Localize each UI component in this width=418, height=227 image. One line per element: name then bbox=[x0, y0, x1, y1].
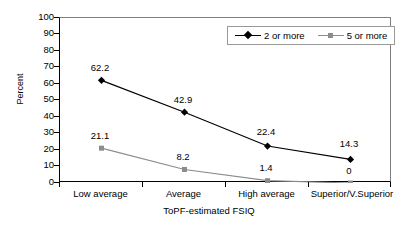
chart-figure: Percent 100 90 80 70 60 50 40 30 20 10 0 bbox=[0, 0, 418, 227]
legend-entry-5-or-more[interactable]: 5 or more bbox=[318, 30, 388, 41]
data-label-2ormore-average: 42.9 bbox=[174, 94, 193, 105]
data-label-5ormore-low-average: 21.1 bbox=[91, 130, 110, 141]
data-label-5ormore-average: 8.2 bbox=[176, 151, 189, 162]
data-point-5-or-more bbox=[182, 167, 187, 172]
y-axis-title: Percent bbox=[15, 49, 25, 129]
y-tick-label: 0 bbox=[28, 177, 54, 186]
y-tick-label: 70 bbox=[28, 61, 54, 70]
x-tick-label-average: Average bbox=[142, 188, 225, 199]
x-axis-title: ToPF-estimated FSIQ bbox=[0, 205, 418, 216]
legend-diamond-marker-icon bbox=[235, 31, 261, 40]
y-tick-label: 20 bbox=[28, 144, 54, 153]
legend-label-5-or-more: 5 or more bbox=[347, 30, 388, 41]
data-label-2ormore-high-average: 22.4 bbox=[257, 126, 276, 137]
data-label-2ormore-superior: 14.3 bbox=[340, 138, 359, 149]
y-tick-label: 40 bbox=[28, 111, 54, 120]
legend-square-marker-icon bbox=[318, 31, 344, 40]
y-tick-label: 80 bbox=[28, 45, 54, 54]
legend-entry-2-or-more[interactable]: 2 or more bbox=[235, 30, 305, 41]
legend-label-2-or-more: 2 or more bbox=[264, 30, 305, 41]
y-tick-label: 10 bbox=[28, 160, 54, 169]
data-point-5-or-more bbox=[265, 178, 270, 183]
data-point-2-or-more bbox=[98, 77, 105, 84]
series-line-2-or-more bbox=[102, 80, 351, 159]
data-label-2ormore-low-average: 62.2 bbox=[91, 62, 110, 73]
series-markers-2-or-more bbox=[98, 77, 354, 163]
data-point-2-or-more bbox=[347, 156, 354, 163]
y-tick-label: 60 bbox=[28, 78, 54, 87]
data-point-5-or-more bbox=[99, 146, 104, 151]
series-markers-5-or-more bbox=[99, 146, 353, 183]
chart-legend: 2 or more 5 or more bbox=[227, 26, 395, 45]
y-axis-tick-labels: 100 90 80 70 60 50 40 30 20 10 0 bbox=[27, 0, 54, 227]
y-tick-label: 100 bbox=[28, 12, 54, 21]
data-label-5ormore-superior: 0 bbox=[346, 165, 351, 176]
x-tick-label-superior: Superior/V.Superior bbox=[306, 188, 398, 199]
y-tick-label: 90 bbox=[28, 28, 54, 37]
x-tick-mark bbox=[308, 182, 309, 187]
data-point-2-or-more bbox=[264, 142, 271, 149]
data-point-5-or-more bbox=[348, 181, 353, 184]
data-point-2-or-more bbox=[181, 109, 188, 116]
y-tick-label: 30 bbox=[28, 127, 54, 136]
x-tick-label-low-average: Low average bbox=[59, 188, 142, 199]
data-label-5ormore-high-average: 1.4 bbox=[259, 162, 272, 173]
x-tick-mark bbox=[59, 182, 60, 187]
x-tick-label-high-average: High average bbox=[225, 188, 308, 199]
x-tick-mark bbox=[225, 182, 226, 187]
x-tick-mark bbox=[390, 182, 391, 187]
x-tick-mark bbox=[142, 182, 143, 187]
y-tick-label: 50 bbox=[28, 94, 54, 103]
